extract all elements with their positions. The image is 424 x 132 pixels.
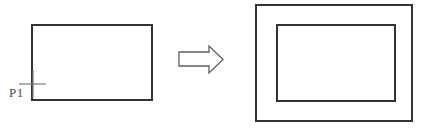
right-arrow-icon xyxy=(179,46,223,73)
result-outer-rectangle xyxy=(256,5,412,121)
pick-point-label: P1 xyxy=(9,86,24,99)
diagram-canvas: P1 xyxy=(0,0,424,132)
result-inner-rectangle xyxy=(277,25,395,101)
source-rectangle xyxy=(32,25,152,100)
diagram-svg xyxy=(0,0,424,132)
